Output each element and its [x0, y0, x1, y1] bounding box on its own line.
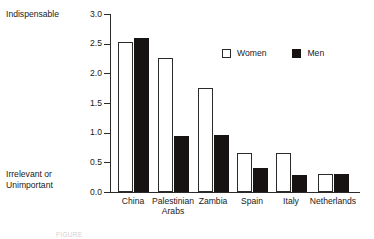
y-axis-tick-label-wrap: 2.0: [74, 68, 102, 79]
y-axis-tick-label: 1.5: [76, 98, 102, 108]
bar-group: [237, 14, 268, 192]
axis-annotation-irrelevant: Irrelevant or Unimportant: [6, 169, 53, 190]
chart-legend: WomenMen: [222, 48, 324, 58]
bar-group: [318, 14, 349, 192]
y-axis-tick-label: 0.5: [76, 157, 102, 167]
bar-women: [276, 153, 291, 192]
y-axis-tick: [104, 73, 110, 74]
y-axis-tick-label-wrap: 2.5: [74, 38, 102, 49]
bar-men: [334, 174, 349, 192]
legend-label: Women: [237, 48, 266, 58]
y-axis-tick-label: 2.5: [76, 38, 102, 48]
bar-group: [158, 14, 189, 192]
legend-swatch-men: [292, 49, 301, 58]
caption-remnant: FIGURE: [56, 231, 82, 238]
y-axis-tick: [104, 133, 110, 134]
y-axis-tick-label: 3.0: [76, 9, 102, 19]
y-axis-tick-label: 0.0: [76, 187, 102, 197]
y-axis-tick: [104, 14, 110, 15]
bar-women: [318, 174, 333, 192]
x-axis-line: [110, 192, 360, 193]
y-axis-tick-label-wrap: 3.0: [74, 9, 102, 20]
legend-label: Men: [307, 48, 324, 58]
legend-item-men: Men: [292, 48, 324, 58]
y-axis-tick: [104, 162, 110, 163]
bar-chart-figure: Indispensable Irrelevant or Unimportant …: [0, 0, 374, 239]
y-axis-tick-label-wrap: 1.0: [74, 127, 102, 138]
bar-women: [158, 58, 173, 192]
bar-men: [214, 135, 229, 192]
y-axis-tick: [104, 44, 110, 45]
legend-swatch-women: [222, 49, 231, 58]
bar-group: [276, 14, 307, 192]
legend-item-women: Women: [222, 48, 266, 58]
plot-area: [111, 14, 360, 192]
x-axis-category-label: Netherlands: [297, 196, 369, 206]
bar-women: [237, 153, 252, 192]
y-axis-tick-label: 1.0: [76, 127, 102, 137]
axis-annotation-indispensable: Indispensable: [6, 9, 59, 20]
y-axis-tick-label-wrap: 1.5: [74, 98, 102, 109]
bar-group: [118, 14, 149, 192]
bar-men: [174, 136, 189, 192]
bar-women: [118, 42, 133, 192]
bar-men: [292, 175, 307, 192]
y-axis-tick-label-wrap: 0.5: [74, 157, 102, 168]
y-axis-tick-label: 2.0: [76, 68, 102, 78]
y-axis-tick: [104, 103, 110, 104]
bar-women: [198, 88, 213, 192]
bar-group: [198, 14, 229, 192]
bar-men: [253, 168, 268, 192]
bar-men: [134, 38, 149, 192]
